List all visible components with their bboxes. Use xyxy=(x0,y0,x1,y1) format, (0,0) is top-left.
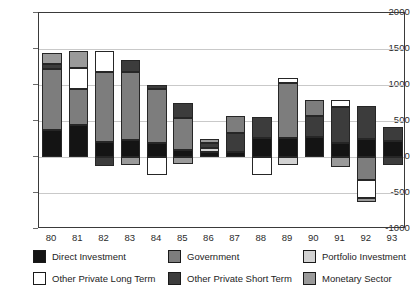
bar-segment xyxy=(69,51,88,68)
legend-label: Government xyxy=(187,251,239,262)
legend-swatch-icon xyxy=(303,250,316,263)
chart-legend: Direct InvestmentGovernmentPortfolio Inv… xyxy=(0,247,410,302)
bar-segment xyxy=(69,89,88,125)
legend-swatch-icon xyxy=(168,272,181,285)
x-tick-label-93: 93 xyxy=(380,233,404,243)
y-tick-mark xyxy=(33,228,38,229)
legend-item[interactable]: Portfolio Investment xyxy=(303,249,406,263)
legend-label: Other Private Short Term xyxy=(187,273,292,284)
stacked-bar-chart: 2000150010005000-500-1000 80818283848586… xyxy=(0,0,410,302)
bar-segment xyxy=(173,103,192,117)
bar-segment xyxy=(357,139,376,157)
bar-segment xyxy=(200,139,219,143)
bar-segment xyxy=(42,64,61,68)
bar-group-85 xyxy=(173,13,192,227)
bar-segment xyxy=(252,157,271,175)
x-tick-label-80: 80 xyxy=(39,233,63,243)
bar-segment xyxy=(331,100,350,107)
x-tick-label-83: 83 xyxy=(118,233,142,243)
bar-group-88 xyxy=(252,13,271,227)
bar-segment xyxy=(331,143,350,157)
x-tick-label-86: 86 xyxy=(196,233,220,243)
bar-segment xyxy=(121,60,140,73)
bar-segment xyxy=(95,72,114,142)
bar-segment xyxy=(278,78,297,83)
bar-segment xyxy=(200,148,219,152)
bar-segment xyxy=(173,118,192,150)
bar-segment xyxy=(147,89,166,142)
bar-segment xyxy=(173,157,192,164)
bar-group-87 xyxy=(226,13,245,227)
bar-segment xyxy=(147,157,166,175)
legend-label: Direct Investment xyxy=(52,251,126,262)
bar-segment xyxy=(252,117,271,138)
x-tick-label-88: 88 xyxy=(249,233,273,243)
bar-group-82 xyxy=(95,13,114,227)
bar-segment xyxy=(200,143,219,148)
bar-segment xyxy=(331,107,350,143)
bar-segment xyxy=(226,116,245,133)
bar-segment xyxy=(147,143,166,157)
bar-segment xyxy=(147,85,166,89)
bar-segment xyxy=(305,100,324,116)
bar-segment xyxy=(200,152,219,157)
plot-area xyxy=(38,12,405,228)
bar-segment xyxy=(305,137,324,157)
bar-segment xyxy=(121,157,140,165)
bar-segment xyxy=(278,83,297,137)
bar-segment xyxy=(69,68,88,89)
bar-group-83 xyxy=(121,13,140,227)
bar-segment xyxy=(305,116,324,137)
bar-segment xyxy=(357,198,376,203)
bar-segment xyxy=(173,150,192,157)
x-tick-label-84: 84 xyxy=(144,233,168,243)
legend-swatch-icon xyxy=(33,250,46,263)
x-tick-label-81: 81 xyxy=(65,233,89,243)
legend-label: Portfolio Investment xyxy=(322,251,406,262)
bar-group-84 xyxy=(147,13,166,227)
bar-group-91 xyxy=(331,13,350,227)
bar-group-80 xyxy=(42,13,61,227)
bar-segment xyxy=(383,157,402,165)
bar-segment xyxy=(42,53,61,65)
legend-swatch-icon xyxy=(33,272,46,285)
legend-item[interactable]: Direct Investment xyxy=(33,249,126,263)
legend-swatch-icon xyxy=(168,250,181,263)
x-tick-label-89: 89 xyxy=(275,233,299,243)
legend-label: Monetary Sector xyxy=(322,273,392,284)
bar-segment xyxy=(42,130,61,157)
legend-item[interactable]: Other Private Long Term xyxy=(33,271,155,285)
bar-group-86 xyxy=(200,13,219,227)
bar-segment xyxy=(95,157,114,166)
bar-group-90 xyxy=(305,13,324,227)
bar-segment xyxy=(357,157,376,180)
bar-group-89 xyxy=(278,13,297,227)
x-tick-label-87: 87 xyxy=(223,233,247,243)
bar-segment xyxy=(121,72,140,139)
x-tick-label-90: 90 xyxy=(301,233,325,243)
legend-item[interactable]: Government xyxy=(168,249,239,263)
bar-segment xyxy=(95,51,114,72)
legend-label: Other Private Long Term xyxy=(52,273,155,284)
x-tick-label-85: 85 xyxy=(170,233,194,243)
bar-segment xyxy=(383,141,402,157)
plot-wrapper: 2000150010005000-500-1000 80818283848586… xyxy=(0,0,410,240)
bar-segment xyxy=(357,106,376,139)
bar-segment xyxy=(252,138,271,157)
bar-segment xyxy=(121,140,140,157)
bar-group-81 xyxy=(69,13,88,227)
bar-segment xyxy=(95,142,114,157)
bar-segment xyxy=(226,133,245,152)
bar-group-92 xyxy=(357,13,376,227)
legend-item[interactable]: Monetary Sector xyxy=(303,271,392,285)
bar-segment xyxy=(278,157,297,165)
x-tick-label-91: 91 xyxy=(327,233,351,243)
x-tick-label-92: 92 xyxy=(354,233,378,243)
bar-segment xyxy=(69,125,88,157)
legend-item[interactable]: Other Private Short Term xyxy=(168,271,292,285)
bar-segment xyxy=(331,157,350,167)
bar-segment xyxy=(383,127,402,141)
bar-segment xyxy=(226,152,245,157)
bar-segment xyxy=(42,69,61,131)
bar-segment xyxy=(278,138,297,157)
